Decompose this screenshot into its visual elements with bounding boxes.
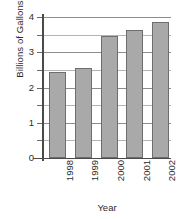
y-axis-tick-label: 0	[4, 153, 34, 163]
x-axis-tick-label: 2000	[115, 160, 127, 194]
bar	[75, 68, 92, 158]
x-axis-line	[33, 158, 171, 159]
y-axis-tick-label: 4	[4, 12, 34, 22]
y-axis-tick-label: 3	[4, 47, 34, 57]
bar	[101, 36, 118, 158]
y-axis-tick-label: 1	[4, 118, 34, 128]
bar	[152, 22, 169, 158]
bar	[126, 30, 143, 158]
x-axis-title: Year	[43, 202, 171, 213]
y-axis-tick-labels: 01234	[0, 0, 34, 219]
plot-area	[43, 17, 171, 158]
y-axis-tick-label: 2	[4, 83, 34, 93]
x-axis-tick-label: 1998	[64, 160, 76, 194]
gridline-major	[43, 17, 171, 18]
y-axis-line	[42, 14, 44, 161]
x-axis-tick-label: 2001	[141, 160, 153, 194]
x-axis-tick-label: 2002	[166, 160, 178, 194]
x-axis-tick-label: 1999	[89, 160, 101, 194]
x-axis-tick-labels: 19981999200020012002	[43, 160, 171, 200]
bar	[49, 72, 66, 158]
bar-chart: Billions of Gallons 01234 19981999200020…	[0, 0, 182, 219]
